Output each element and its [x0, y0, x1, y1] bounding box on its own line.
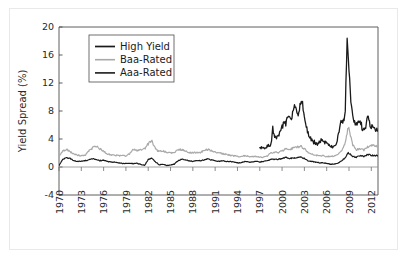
- legend-label-baa-rated: Baa-Rated: [120, 54, 172, 65]
- x-tick-label: 2012: [366, 190, 377, 214]
- chart-figure: 201612840-419701973197619791982198519881…: [0, 0, 410, 261]
- x-tick-label: 2000: [277, 190, 288, 214]
- y-axis-title: Yield Spread (%): [17, 70, 28, 154]
- x-tick-label: 1982: [143, 190, 154, 214]
- x-tick-label: 1979: [121, 190, 132, 214]
- y-tick-label: -4: [45, 189, 54, 200]
- x-tick-label: 1976: [98, 190, 109, 214]
- x-tick-label: 1997: [254, 190, 265, 214]
- x-tick-label: 1988: [187, 190, 198, 214]
- x-tick-label: 1991: [210, 190, 221, 214]
- y-tick-label: 20: [42, 21, 54, 32]
- y-tick-label: 4: [48, 133, 54, 144]
- yield-spread-chart: 201612840-419701973197619791982198519881…: [0, 0, 410, 261]
- y-tick-label: 0: [48, 161, 54, 172]
- y-tick-label: 12: [42, 77, 54, 88]
- y-tick-label: 8: [48, 105, 54, 116]
- x-tick-label: 1973: [76, 190, 87, 214]
- legend-label-aaa-rated: Aaa-Rated: [120, 67, 172, 78]
- x-tick-label: 1970: [54, 190, 65, 214]
- legend-label-high-yield: High Yield: [120, 41, 170, 52]
- y-tick-label: 16: [42, 49, 54, 60]
- x-tick-label: 1994: [232, 190, 243, 214]
- x-tick-label: 2003: [299, 190, 310, 214]
- x-tick-label: 2009: [344, 190, 355, 214]
- x-tick-label: 2006: [321, 190, 332, 214]
- x-tick-label: 1985: [165, 190, 176, 214]
- chart-legend: High YieldBaa-RatedAaa-Rated: [89, 35, 174, 82]
